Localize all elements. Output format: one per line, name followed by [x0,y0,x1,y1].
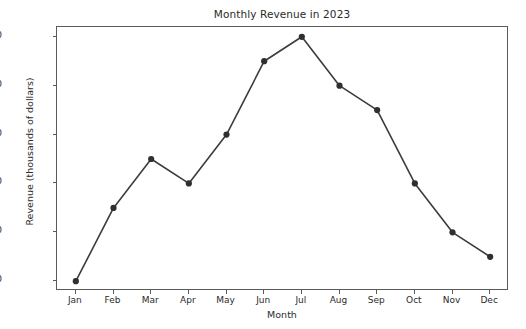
data-point-aug [336,83,342,89]
x-tick-mark-oct [414,290,415,294]
y-tick-mark-100 [53,36,57,37]
x-tick-mark-aug [339,290,340,294]
y-tick-mark-80 [53,134,57,135]
revenue-line [76,37,490,281]
data-point-feb [110,205,116,211]
x-tick-mark-dec [489,290,490,294]
data-point-may [223,131,229,137]
x-tick-mark-sep [376,290,377,294]
data-point-jun [261,58,267,64]
y-tick-mark-50 [53,280,57,281]
revenue-markers [73,34,494,285]
x-tick-mark-nov [452,290,453,294]
y-tick-label-100: 100 [0,30,2,40]
y-tick-mark-90 [53,85,57,86]
x-tick-mark-may [226,290,227,294]
x-tick-mark-apr [188,290,189,294]
data-point-nov [449,229,455,235]
chart-figure: Monthly Revenue in 2023 5060708090100 Ja… [0,0,526,329]
line-chart-svg [57,27,509,291]
data-point-apr [186,180,192,186]
data-point-oct [412,180,418,186]
y-axis-label: Revenue (thousands of dollars) [24,72,35,232]
x-tick-mark-feb [113,290,114,294]
x-tick-label-dec: Dec [467,295,511,305]
data-point-sep [374,107,380,113]
x-tick-mark-mar [150,290,151,294]
data-point-dec [487,254,493,260]
y-tick-mark-70 [53,182,57,183]
y-tick-label-70: 70 [0,176,2,186]
chart-title: Monthly Revenue in 2023 [56,8,508,20]
y-tick-label-60: 60 [0,225,2,235]
x-axis-label: Month [56,309,508,320]
x-tick-mark-jan [75,290,76,294]
x-tick-mark-jul [301,290,302,294]
y-tick-label-90: 90 [0,79,2,89]
plot-area [56,26,508,290]
data-point-mar [148,156,154,162]
x-tick-mark-jun [263,290,264,294]
data-point-jul [299,34,305,40]
y-tick-mark-60 [53,231,57,232]
y-tick-label-50: 50 [0,274,2,284]
data-point-jan [73,278,79,284]
y-tick-label-80: 80 [0,128,2,138]
